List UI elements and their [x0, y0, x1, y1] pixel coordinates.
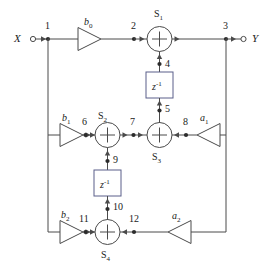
node-6-dot: [83, 133, 87, 137]
input-terminal-X: [30, 36, 35, 41]
arrow-node7-to-S3: [138, 132, 143, 137]
label-node-8: 8: [183, 117, 188, 127]
arrow-node2-to-S1: [140, 36, 145, 41]
label-node-2: 2: [131, 21, 136, 31]
gain-a2-sub: 2: [177, 216, 181, 224]
label-node-10: 10: [113, 202, 123, 212]
arrow-node3-to-Y: [231, 36, 236, 41]
gain-a1-sub: 1: [205, 118, 209, 126]
label-gain-a1: a1: [200, 113, 209, 126]
label-node-5: 5: [165, 104, 170, 114]
label-input-X: X: [14, 33, 21, 44]
arrow-node6-to-S2: [90, 132, 95, 137]
gain-triangle-b1: [60, 124, 83, 147]
node-11-dot: [83, 230, 87, 234]
delay-upper-sup: -1: [156, 80, 162, 88]
label-node-7: 7: [130, 117, 135, 127]
summer-S4-sub: 4: [107, 255, 111, 263]
label-delay-lower: z-1: [100, 178, 110, 190]
node-5-dot: [157, 108, 161, 112]
label-gain-b1: b1: [62, 113, 71, 126]
label-summer-S3: S3: [152, 152, 161, 165]
node-10-dot: [105, 207, 109, 211]
delay-lower-sup: -1: [104, 178, 110, 186]
label-node-1: 1: [45, 21, 50, 31]
summer-S2-sub: 2: [104, 116, 108, 124]
gain-triangle-a1: [197, 124, 220, 147]
arrow-X-to-node1: [41, 36, 46, 41]
label-output-Y: Y: [252, 33, 258, 44]
label-node-12: 12: [129, 214, 139, 224]
arrow-S2-out: [123, 132, 128, 137]
output-terminal-Y: [241, 36, 246, 41]
gain-b1-sub: 1: [67, 118, 71, 126]
label-delay-upper: z-1: [152, 80, 162, 92]
signal-flow-diagram: .w { fill:none; stroke:#4a4a4a; stroke-w…: [0, 0, 274, 276]
label-gain-b2: b2: [61, 210, 70, 223]
label-gain-a2: a2: [172, 211, 181, 224]
arrow-node10-to-delay-lower: [105, 199, 110, 204]
arrow-node4-to-S1: [157, 54, 162, 59]
arrow-node9-to-S2: [105, 151, 110, 156]
summer-S1-sub: 1: [160, 14, 164, 22]
label-summer-S4: S4: [101, 250, 110, 263]
label-gain-b0: b0: [84, 17, 93, 30]
gain-b0-sub: 0: [89, 22, 93, 30]
node-4-dot: [157, 62, 161, 66]
label-summer-S2: S2: [98, 111, 107, 124]
node-12-dot: [132, 230, 136, 234]
arrow-node5-to-delay-upper: [157, 101, 162, 106]
arrow-node11-to-S4: [90, 229, 95, 234]
label-node-4: 4: [165, 59, 170, 69]
gain-b2-sub: 2: [66, 215, 70, 223]
node-8-dot: [184, 133, 188, 137]
label-node-9: 9: [113, 155, 118, 165]
label-node-3: 3: [223, 21, 228, 31]
node-9-dot: [105, 159, 109, 163]
gain-triangle-b0: [78, 28, 101, 51]
arrow-S1-out: [175, 36, 180, 41]
arrow-node8-to-S3: [174, 132, 179, 137]
label-node-11: 11: [79, 214, 89, 224]
node-7-dot: [131, 133, 135, 137]
diagram-vector-layer: .w { fill:none; stroke:#4a4a4a; stroke-w…: [0, 0, 274, 276]
label-node-6: 6: [82, 117, 87, 127]
summer-S3-sub: 3: [158, 157, 162, 165]
label-summer-S1: S1: [154, 9, 163, 22]
arrow-node12-to-S4: [122, 229, 127, 234]
